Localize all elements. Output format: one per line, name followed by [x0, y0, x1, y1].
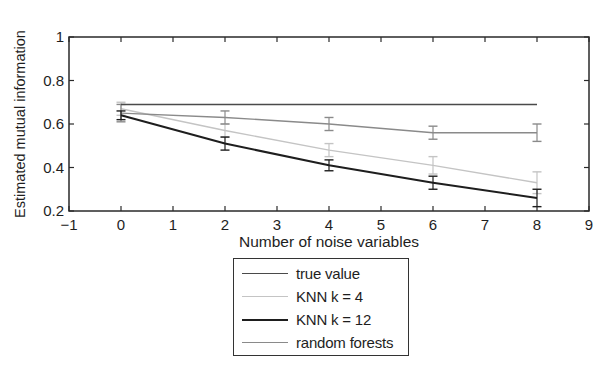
series-random-forests	[117, 104, 542, 141]
y-tick-label: 0.6	[43, 115, 64, 132]
y-tick-label: 1	[56, 28, 64, 45]
x-axis-label: Number of noise variables	[239, 233, 419, 250]
x-tick-label: 3	[273, 216, 281, 233]
legend-swatch-knn-k12	[242, 319, 288, 321]
y-tick-label: 0.2	[43, 202, 64, 219]
x-tick-label: 7	[481, 216, 489, 233]
legend-swatch-random-forests	[242, 342, 288, 343]
legend-label: KNN k = 4	[296, 288, 363, 305]
legend: true value KNN k = 4 KNN k = 12 random f…	[233, 258, 409, 356]
y-tick-label: 0.8	[43, 72, 64, 89]
x-tick-label: 8	[533, 216, 541, 233]
mutual-information-chart: −101234567890.20.40.60.81 Number of nois…	[0, 0, 609, 369]
x-tick-label: 2	[221, 216, 229, 233]
y-tick-label: 0.4	[43, 159, 64, 176]
legend-item-true-value: true value	[242, 262, 402, 285]
legend-item-random-forests: random forests	[242, 331, 402, 354]
x-tick-label: 9	[585, 216, 593, 233]
y-axis-label: Estimated mutual information	[12, 30, 28, 218]
legend-label: random forests	[296, 334, 393, 351]
legend-swatch-knn-k4	[242, 296, 288, 297]
x-tick-label: 0	[117, 216, 125, 233]
legend-item-knn-k4: KNN k = 4	[242, 285, 402, 308]
axes: −101234567890.20.40.60.81	[43, 28, 593, 233]
legend-item-knn-k12: KNN k = 12	[242, 308, 402, 331]
x-tick-label: 5	[377, 216, 385, 233]
legend-swatch-true-value	[242, 273, 288, 274]
series-lines	[117, 102, 542, 206]
x-tick-label: 1	[169, 216, 177, 233]
legend-label: KNN k = 12	[296, 311, 371, 328]
x-tick-label: 6	[429, 216, 437, 233]
x-tick-label: 4	[325, 216, 333, 233]
legend-label: true value	[296, 265, 360, 282]
